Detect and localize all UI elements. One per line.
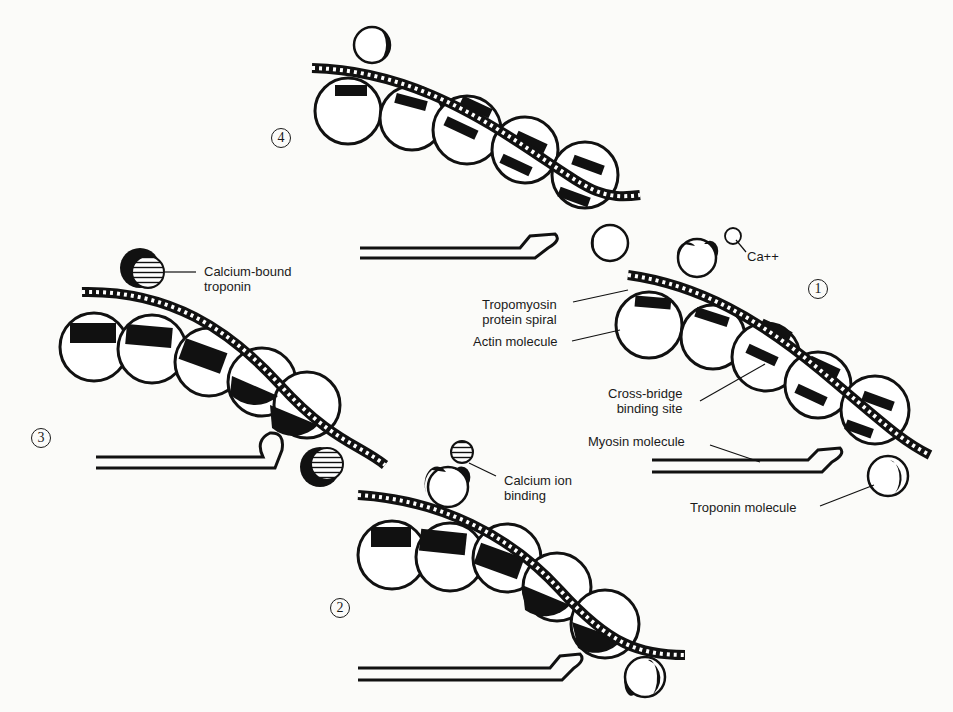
label-troponin: Troponin molecule xyxy=(690,500,796,515)
label-ca-ion: Ca++ xyxy=(747,249,779,264)
label-cross-bridge-binding-site: Cross-bridge binding site xyxy=(608,386,682,416)
label-calcium-bound-troponin: Calcium-bound troponin xyxy=(204,264,291,294)
step-number-3: 3 xyxy=(31,428,51,448)
troponin-top xyxy=(354,27,390,63)
calcium-ion-icon xyxy=(725,228,741,244)
troponin-top xyxy=(425,466,471,507)
label-myosin: Myosin molecule xyxy=(588,434,685,449)
myosin-filament xyxy=(96,433,283,468)
myosin-filament xyxy=(358,654,582,680)
calcium-ion-icon xyxy=(451,441,473,463)
step-number-2: 2 xyxy=(330,598,350,618)
troponin-top xyxy=(677,239,718,277)
calcium-bound-troponin-bottom xyxy=(300,447,343,487)
calcium-bound-troponin-top xyxy=(120,248,164,288)
label-actin: Actin molecule xyxy=(473,334,558,349)
panel-step-4 xyxy=(312,27,640,261)
actin-chain xyxy=(616,292,909,444)
troponin-bottom xyxy=(868,456,908,496)
myosin-filament xyxy=(652,448,842,472)
panel-step-1 xyxy=(572,228,930,506)
label-tropomyosin: Tropomyosin protein spiral xyxy=(482,297,557,327)
diagram-artwork xyxy=(0,0,953,712)
muscle-contraction-diagram: 1 2 3 4 Ca++ Tropomyosin protein spiral … xyxy=(0,0,953,712)
step-number-1: 1 xyxy=(808,279,828,299)
troponin-bottom xyxy=(592,225,628,261)
label-calcium-ion-binding: Calcium ion binding xyxy=(504,473,572,503)
myosin-filament xyxy=(360,234,557,258)
troponin-bottom xyxy=(624,657,665,697)
step-number-4: 4 xyxy=(271,128,291,148)
